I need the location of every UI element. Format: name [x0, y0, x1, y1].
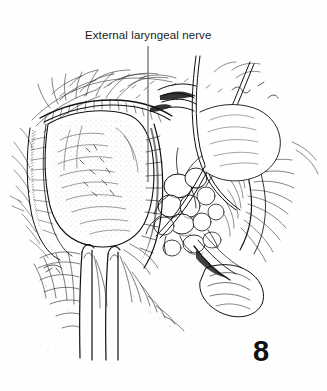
vertical-retractor-a: [80, 245, 94, 360]
figure-number: 8: [253, 336, 269, 366]
thyroid-lobe: [45, 111, 154, 247]
vertical-retractor-b: [106, 247, 120, 360]
tissue-shelf-right: [200, 105, 280, 181]
suture-curve: [214, 62, 260, 78]
anatomical-illustration: [0, 0, 327, 391]
fascia-left-marks: [44, 265, 62, 273]
figure-panel: External laryngeal nerve 8: [0, 0, 327, 391]
nerve-label: External laryngeal nerve: [85, 28, 211, 42]
lower-left-tissue: [34, 244, 184, 331]
lower-texture: [40, 286, 201, 353]
